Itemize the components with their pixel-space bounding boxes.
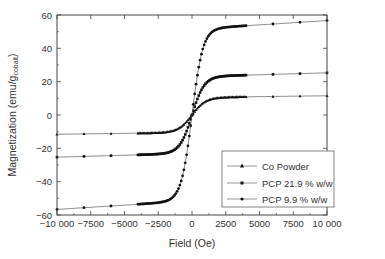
x-tick-label: 0 <box>189 218 194 229</box>
x-tick-label: −2500 <box>145 218 172 229</box>
magnetization-chart: −10 000−7500−5000−2500025005000750010 00… <box>0 0 385 259</box>
x-tick-label: −7500 <box>77 218 104 229</box>
y-tick-label: −20 <box>36 143 52 154</box>
y-axis-label: Magnetization (emu/gcobalt) <box>6 53 19 176</box>
svg-text:PCP 21.9 % w/w: PCP 21.9 % w/w <box>262 178 333 189</box>
x-tick-label: −5000 <box>111 218 138 229</box>
y-tick-label: −60 <box>36 210 52 221</box>
x-tick-label: 5000 <box>249 218 270 229</box>
x-tick-label: 7500 <box>283 218 304 229</box>
y-tick-label: 0 <box>47 110 52 121</box>
y-tick-label: 20 <box>41 76 52 87</box>
y-tick-label: 60 <box>41 10 52 21</box>
svg-text:PCP 9.9 % w/w: PCP 9.9 % w/w <box>262 194 327 205</box>
legend: Co Powder PCP 21.9 % w/w PCP 9.9 % w/w <box>222 151 334 207</box>
circle-marker-icon <box>240 197 243 200</box>
square-marker-icon <box>241 182 244 185</box>
x-tick-label: 10 000 <box>312 218 341 229</box>
svg-text:Co Powder: Co Powder <box>262 161 309 172</box>
y-tick-label: 40 <box>41 43 52 54</box>
x-axis-label: Field (Oe) <box>169 237 216 249</box>
x-tick-label: 2500 <box>215 218 236 229</box>
y-tick-label: −40 <box>36 176 52 187</box>
